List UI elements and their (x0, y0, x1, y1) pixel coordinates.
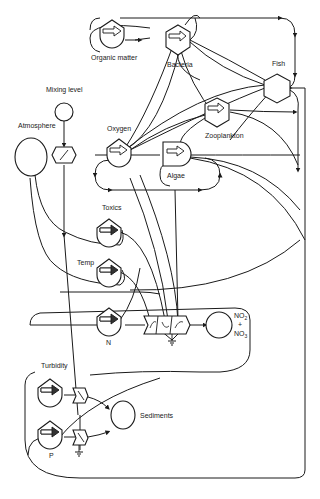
node-fish: Fish (264, 60, 290, 103)
node-algae: Algae (163, 142, 191, 180)
node-mixing-level: Mixing level (46, 86, 83, 121)
n-label: N (106, 339, 111, 346)
bacteria-label: Bacteria (167, 61, 193, 68)
turbidity-label: Turbidity (41, 362, 68, 370)
node-zooplankton: Zooplankton (205, 98, 244, 140)
toxics-label: Toxics (102, 204, 122, 211)
node-atmosphere: Atmosphere (15, 122, 56, 176)
fish-label: Fish (272, 60, 285, 67)
node-sediments: Sediments (111, 401, 174, 429)
sediments-label: Sediments (140, 412, 174, 419)
ecosystem-diagram: Organic matter Bacteria Fish Zooplankton… (0, 0, 320, 499)
temp-label: Temp (77, 259, 94, 267)
no2-label: NO2 (234, 312, 248, 321)
p-label: P (49, 452, 54, 459)
no3-label: NO3 (234, 330, 248, 339)
mixing-gate (52, 147, 76, 163)
mixing-level-label: Mixing level (46, 86, 83, 94)
flow-lines (25, 15, 305, 478)
node-p: P (38, 421, 62, 459)
turbidity-gate (73, 388, 88, 403)
node-n: N (97, 308, 121, 346)
oxygen-label: Oxygen (107, 125, 131, 133)
node-no2-no3: NO2 + NO3 (206, 312, 248, 339)
nitrification-gates (144, 316, 190, 345)
p-gate (73, 430, 88, 456)
node-bacteria: Bacteria (166, 25, 193, 68)
atmosphere-label: Atmosphere (18, 122, 56, 130)
algae-label: Algae (167, 172, 185, 180)
node-oxygen: Oxygen (107, 125, 131, 167)
plus-label: + (238, 321, 242, 328)
node-turbidity: Turbidity (38, 362, 68, 407)
node-toxics: Toxics (97, 204, 122, 247)
organic-matter-label: Organic matter (91, 54, 138, 62)
zooplankton-label: Zooplankton (205, 132, 244, 140)
